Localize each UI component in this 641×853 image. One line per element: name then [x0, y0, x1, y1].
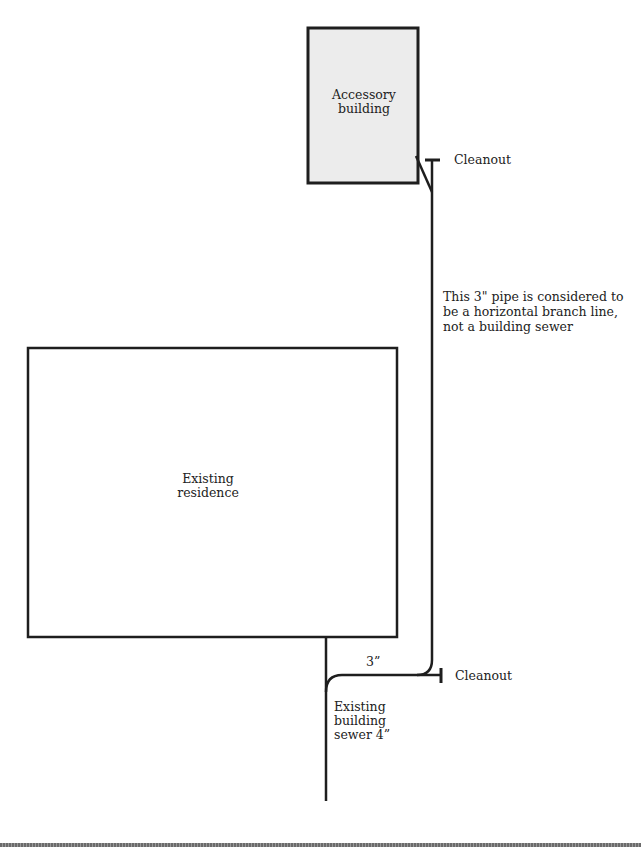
existing-residence-label: Existing residence: [168, 472, 248, 500]
branch-line-note: This 3" pipe is considered to be a horiz…: [443, 289, 624, 334]
accessory-building-label: Accessory building: [322, 88, 406, 116]
branch-line-3in: [417, 192, 432, 675]
lower-cleanout-label: Cleanout: [455, 669, 512, 683]
bottom-rule: [0, 843, 641, 847]
branch-size-label: 3”: [366, 655, 380, 669]
branch-horizontal: [326, 675, 441, 692]
building-sewer-label: Existing building sewer 4”: [334, 700, 390, 742]
upper-cleanout-label: Cleanout: [454, 153, 511, 167]
plumbing-diagram: [0, 0, 641, 853]
